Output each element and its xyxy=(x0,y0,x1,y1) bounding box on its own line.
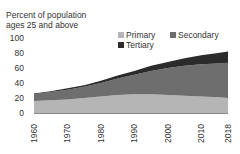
x-tick-label: 1960 xyxy=(29,124,39,143)
x-tick-label: 2010 xyxy=(196,124,206,143)
y-tick-label: 100 xyxy=(2,33,24,43)
y-tick-label: 60 xyxy=(2,63,24,73)
x-tick-label: 2000 xyxy=(163,124,173,143)
y-tick-label: 80 xyxy=(2,48,24,58)
x-tick-label: 2018 xyxy=(223,124,233,143)
x-tick-label: 1970 xyxy=(62,124,72,143)
x-tick-label: 1980 xyxy=(96,124,106,143)
y-tick-label: 20 xyxy=(2,93,24,103)
x-tick-label: 1990 xyxy=(129,124,139,143)
y-tick-label: 40 xyxy=(2,78,24,88)
y-tick-label: 0 xyxy=(2,108,24,118)
